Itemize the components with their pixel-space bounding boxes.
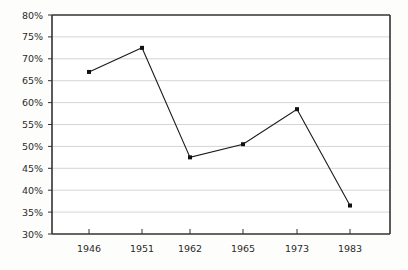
x-axis-tick-label: 1973 <box>285 243 309 254</box>
data-point-marker <box>295 107 299 111</box>
data-point-marker <box>87 70 91 74</box>
y-axis-tick-label: 35% <box>22 207 43 218</box>
y-axis-label-group: 30%35%40%45%50%55%60%65%70%75%80% <box>22 10 43 240</box>
x-axis-tick-label: 1946 <box>77 243 101 254</box>
data-point-marker <box>140 46 144 50</box>
y-axis-tick-label: 75% <box>22 31 43 42</box>
x-axis-label-group: 194619511962196519731983 <box>77 243 362 254</box>
data-point-marker <box>241 142 245 146</box>
y-axis-tick-label: 60% <box>22 97 43 108</box>
chart-screenshot: 30%35%40%45%50%55%60%65%70%75%80% 194619… <box>0 0 408 270</box>
x-axis-tick-label: 1983 <box>338 243 362 254</box>
y-axis-tick-label: 40% <box>22 185 43 196</box>
y-axis-tick-label: 30% <box>22 229 43 240</box>
y-axis-tick-label: 45% <box>22 163 43 174</box>
line-chart: 30%35%40%45%50%55%60%65%70%75%80% 194619… <box>0 0 408 270</box>
y-axis-tick-label: 50% <box>22 141 43 152</box>
data-point-marker <box>348 204 352 208</box>
x-axis-tick-label: 1965 <box>231 243 255 254</box>
y-axis-tick-label: 80% <box>22 10 43 21</box>
x-axis-tick-label: 1951 <box>130 243 154 254</box>
x-axis-tick-label: 1962 <box>178 243 202 254</box>
y-axis-tick-label: 55% <box>22 119 43 130</box>
y-axis-tick-label: 70% <box>22 53 43 64</box>
data-point-marker <box>188 155 192 159</box>
y-axis-tick-label: 65% <box>22 75 43 86</box>
